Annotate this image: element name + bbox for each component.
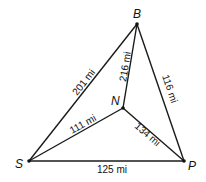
edge-n-p-label: 134 mi [133,120,163,148]
edge-s-n [29,108,123,161]
edge-n-b-label: 216 mi [117,51,133,82]
vertex-s-dot [27,159,31,163]
vertex-p-label: P [188,159,196,173]
vertex-p-dot [182,159,186,163]
edge-s-b [29,24,137,161]
edge-s-p-label: 125 mi [97,164,127,175]
vertex-n-dot [121,106,125,110]
graph-diagram: B N S P 201 mi 216 mi 116 mi 111 mi 134 … [0,0,206,182]
vertex-b-dot [135,22,139,26]
vertex-b-label: B [133,7,141,21]
vertex-s-label: S [15,157,23,171]
vertex-n-label: N [111,94,120,108]
edge-s-n-label: 111 mi [68,112,98,136]
